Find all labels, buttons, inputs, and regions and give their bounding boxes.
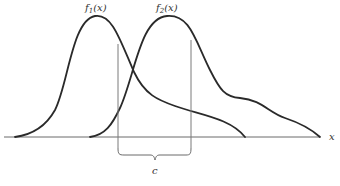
x-axis-label: x (329, 131, 335, 142)
curve-f2 (90, 16, 320, 137)
distribution-diagram: x f1(x) f2(x) c (0, 0, 340, 186)
curve-f2-label: f2(x) (155, 2, 178, 15)
curve-f1-label: f1(x) (84, 2, 107, 15)
interval-label: c (152, 165, 158, 176)
interval-brace (118, 148, 191, 160)
